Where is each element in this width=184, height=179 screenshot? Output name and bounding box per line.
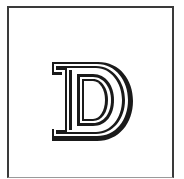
letter-d-glyph (0, 0, 184, 179)
